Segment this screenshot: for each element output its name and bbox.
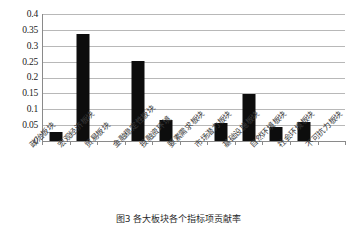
x-axis-tick [345, 141, 346, 145]
bar-chart: 0.4 0.35 0.3 0.25 0.2 0.15 0.1 0.05 0 [0, 0, 357, 226]
y-axis-tick-label: 0.15 [0, 88, 38, 98]
bar-slot [42, 14, 70, 141]
y-axis-tick-label: 0.35 [0, 25, 38, 35]
x-axis-category-labels: 政治板块 宏观经济板块 贸易板块 金融稳定性板块 投融资环境 要素需求板块 市场… [42, 143, 345, 203]
y-axis-tick-label: 0.3 [0, 41, 38, 51]
bar-slot [97, 14, 125, 141]
y-axis-tick-label: 0.25 [0, 57, 38, 67]
y-axis-tick-label: 0.2 [0, 72, 38, 82]
y-axis-tick-label: 0.1 [0, 104, 38, 114]
y-axis-tick-label: 0.05 [0, 120, 38, 130]
figure-caption: 图3 各大板块各个指标项贡献率 [0, 214, 357, 226]
y-axis-tick-label: 0.4 [0, 9, 38, 19]
